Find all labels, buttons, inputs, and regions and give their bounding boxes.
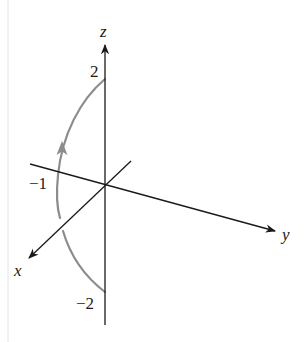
y-axis-label: y [280, 225, 290, 244]
y-axis [30, 164, 275, 231]
x-axis-label: x [13, 261, 22, 280]
parametric-curve [57, 79, 106, 292]
curve-lower-segment [63, 231, 105, 292]
y-tick-minus-1: −1 [29, 174, 47, 193]
z-axis-label: z [99, 22, 107, 41]
z-tick-minus-2: −2 [76, 294, 94, 313]
z-tick-2: 2 [90, 62, 99, 81]
3d-axes-diagram: z y x 2 −2 −1 [0, 0, 304, 342]
